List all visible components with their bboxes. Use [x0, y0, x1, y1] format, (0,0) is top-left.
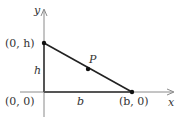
triangle-diagram: y x (0, h) (0, 0) (b, 0) P h b	[0, 0, 183, 119]
label-p: P	[88, 53, 97, 66]
label-height: h	[34, 64, 41, 77]
label-right-point: (b, 0)	[119, 95, 149, 108]
point-top	[42, 41, 46, 45]
label-origin: (0, 0)	[5, 95, 35, 108]
label-top-point: (0, h)	[5, 37, 35, 50]
point-right	[130, 90, 134, 94]
point-p	[86, 67, 90, 71]
y-axis-label: y	[33, 4, 41, 17]
label-base: b	[77, 95, 84, 108]
x-axis-label: x	[168, 96, 175, 109]
